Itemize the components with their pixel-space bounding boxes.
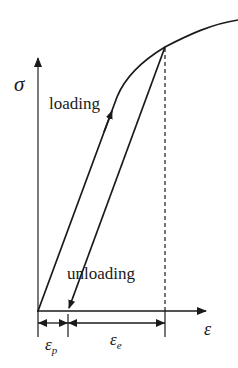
x-axis-label: ε (204, 320, 211, 338)
plastic-strain-label: εp (45, 336, 57, 356)
stress-strain-diagram (0, 0, 238, 368)
elastic-strain-subscript: e (117, 339, 122, 351)
loading-label: loading (49, 95, 100, 112)
plastic-strain-symbol: ε (45, 335, 52, 354)
loading-arrow-icon (104, 111, 112, 132)
y-axis-label: σ (14, 74, 24, 95)
plastic-strain-subscript: p (52, 344, 58, 356)
elastic-strain-symbol: ε (110, 330, 117, 349)
unloading-label: unloading (67, 265, 135, 282)
elastic-strain-label: εe (110, 331, 122, 351)
